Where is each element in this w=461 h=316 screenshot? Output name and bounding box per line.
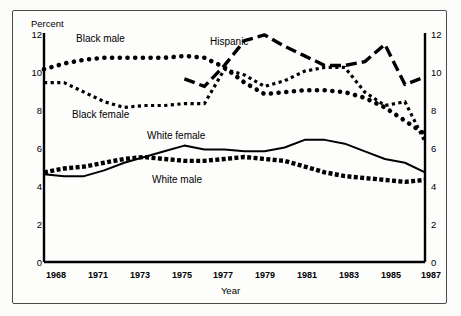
series-path-black-female — [44, 67, 425, 141]
series-path-hispanic — [184, 35, 425, 87]
chart-figure: Percent Year 12 10 8 6 4 2 0 12 10 8 6 4… — [0, 0, 461, 316]
chart-plot-area — [0, 0, 461, 316]
series-path-white-male — [44, 157, 425, 182]
series-path-black-male — [44, 56, 425, 134]
